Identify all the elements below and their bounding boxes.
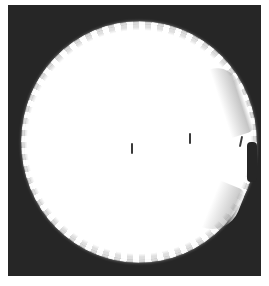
mark-2 [189,133,191,144]
photo-frame [8,5,261,276]
mark-1 [131,143,133,154]
round-dish [24,24,254,260]
rim-notch [247,142,257,182]
